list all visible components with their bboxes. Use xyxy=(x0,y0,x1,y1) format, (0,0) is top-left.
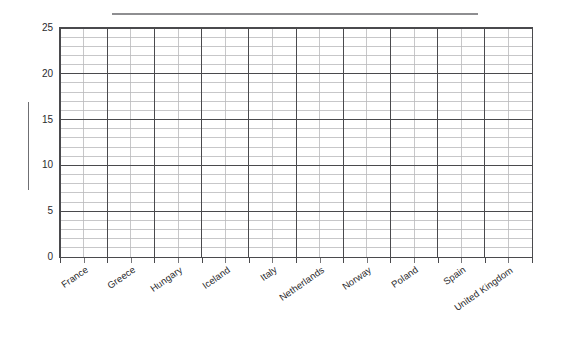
y-axis-tick-label: 10 xyxy=(0,160,53,170)
y-axis-labels: 2520151050 xyxy=(0,27,53,258)
chart-figure: 2520151050 FranceGreeceHungaryIcelandIta… xyxy=(0,0,562,339)
x-axis-labels: FranceGreeceHungaryIcelandItalyNetherlan… xyxy=(59,258,533,339)
plot-area xyxy=(59,27,533,258)
x-axis-category-label: Netherlands xyxy=(277,264,326,303)
x-axis-category-label: Spain xyxy=(441,264,468,287)
x-axis-category-label: Greece xyxy=(105,264,137,291)
y-axis-tick-label: 0 xyxy=(0,252,53,262)
x-axis-category-label: Italy xyxy=(258,264,279,283)
x-axis-category-label: Hungary xyxy=(148,264,184,294)
y-axis-tick-label: 20 xyxy=(0,69,53,79)
y-axis-tick-label: 5 xyxy=(0,206,53,216)
y-axis-tick-label: 15 xyxy=(0,115,53,125)
grid xyxy=(60,28,532,257)
x-axis-category-label: France xyxy=(59,264,90,290)
x-axis-category-label: Poland xyxy=(389,264,420,290)
x-axis-category-label: Norway xyxy=(340,264,373,292)
y-axis-tick-label: 25 xyxy=(0,23,53,33)
legend-rule xyxy=(112,13,478,15)
x-axis-category-label: Iceland xyxy=(200,264,232,291)
